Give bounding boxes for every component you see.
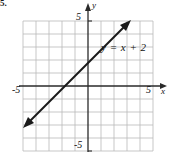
y-tick-label-positive-five: 5 — [76, 11, 81, 22]
y-axis — [85, 3, 91, 152]
equation-label: y = x + 2 — [101, 41, 147, 53]
x-tick-label-negative-five: -5 — [12, 84, 20, 95]
y-tick-label-negative-five: -5 — [74, 139, 82, 150]
x-axis — [19, 83, 167, 89]
y-axis-name-label: y — [92, 0, 96, 10]
x-axis-name-label: x — [161, 86, 165, 96]
coordinate-plane — [0, 0, 170, 160]
graph-figure: 5. — [0, 0, 170, 160]
y-axis-arrowhead — [85, 3, 91, 11]
x-tick-label-positive-five: 5 — [146, 84, 151, 95]
